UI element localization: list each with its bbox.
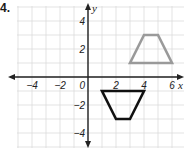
y-tick-label: −4	[74, 128, 86, 139]
x-tick-label: 2	[112, 80, 119, 91]
y-tick-label: 4	[79, 16, 85, 27]
tick-labels: xy−4−224642−2−40	[26, 2, 183, 139]
x-tick-label: 4	[141, 80, 147, 91]
y-axis-arrow-up	[85, 3, 91, 10]
x-axis-label: x	[177, 79, 183, 91]
x-tick-label: −2	[54, 80, 66, 91]
x-tick-label: −4	[26, 80, 38, 91]
y-axis-label: y	[91, 2, 97, 14]
y-tick-label: 2	[78, 44, 85, 55]
coordinate-plane: xy−4−224642−2−40	[0, 0, 184, 150]
x-tick-label: 6	[169, 80, 175, 91]
origin-label: 0	[79, 80, 85, 91]
y-tick-label: −2	[74, 100, 86, 111]
x-axis-arrow-left	[8, 74, 15, 80]
